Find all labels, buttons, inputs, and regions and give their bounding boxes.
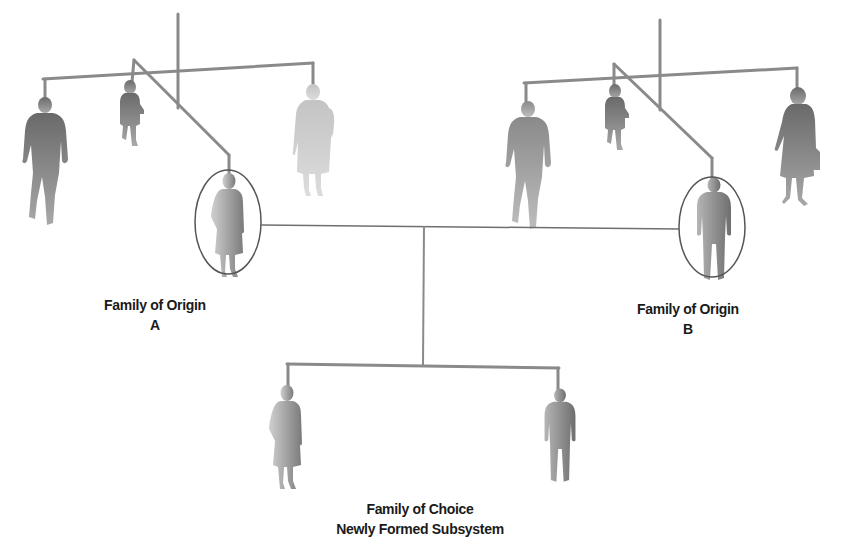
family-mobile-diagram [0, 0, 841, 560]
label-line-1: Family of Choice [320, 499, 520, 519]
man-figure-circled [697, 178, 731, 281]
diagonal-bar [614, 64, 712, 158]
child-hook [132, 60, 134, 82]
crossbar [287, 364, 559, 368]
woman-with-child-figure [293, 84, 334, 196]
label-line-1: Family of Origin [80, 295, 230, 315]
child-figure [120, 80, 144, 146]
woman-with-briefcase-figure [775, 87, 820, 206]
label-line-2: B [613, 319, 763, 339]
diagonal-bar [134, 60, 229, 155]
label-line-2: A [80, 315, 230, 335]
child-figure [605, 84, 629, 150]
label-family-of-origin-b: Family of Origin B [613, 299, 763, 339]
mobile-choice [269, 364, 575, 489]
woman-figure-circled [211, 173, 244, 277]
union-connector [261, 225, 679, 229]
woman-figure [269, 385, 302, 489]
mobile-origin-b [505, 20, 820, 280]
label-family-of-choice: Family of Choice Newly Formed Subsystem [320, 499, 520, 539]
man-figure [545, 389, 576, 482]
label-line-2: Newly Formed Subsystem [320, 519, 520, 539]
union-stem [423, 226, 424, 366]
mobile-origin-a [22, 14, 334, 277]
man-figure [505, 101, 551, 229]
man-figure [22, 97, 68, 225]
label-line-1: Family of Origin [613, 299, 763, 319]
label-family-of-origin-a: Family of Origin A [80, 295, 230, 335]
